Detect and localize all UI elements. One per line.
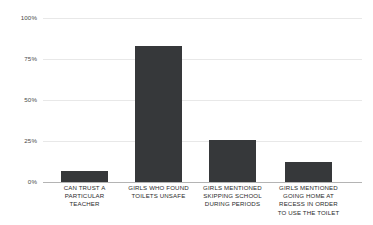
bar-chart: 100% 75% 50% 25% 0% CAN TRUST A PARTICUL… — [0, 0, 373, 225]
bar-slot-1 — [135, 18, 182, 182]
bar-can-trust-a-particular-teacher[interactable] — [61, 171, 108, 182]
y-tick-label-25: 25% — [3, 138, 37, 144]
x-axis-category-labels: CAN TRUST A PARTICULAR TEACHER GIRLS WHO… — [43, 184, 362, 225]
y-tick-label-0: 0% — [3, 179, 37, 185]
bar-girls-mentioned-skipping-school-during-periods[interactable] — [209, 140, 256, 182]
y-tick-label-100: 100% — [3, 15, 37, 21]
y-tick-label-50: 50% — [3, 97, 37, 103]
category-label-3: GIRLS MENTIONED GOING HOME AT RECESS IN … — [259, 184, 358, 217]
x-axis-line — [43, 182, 362, 183]
bar-slot-3 — [285, 18, 332, 182]
bar-slot-2 — [209, 18, 256, 182]
bars-layer — [43, 18, 362, 182]
bar-girls-mentioned-going-home-at-recess[interactable] — [285, 162, 332, 183]
bar-girls-who-found-toilets-unsafe[interactable] — [135, 46, 182, 182]
bar-slot-0 — [61, 18, 108, 182]
y-tick-label-75: 75% — [3, 56, 37, 62]
